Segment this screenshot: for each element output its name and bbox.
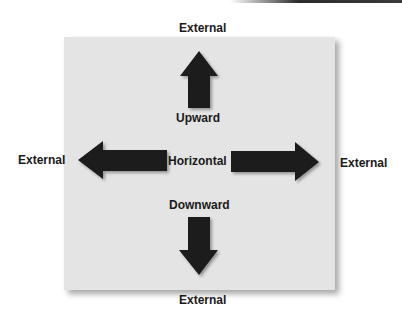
arrow-down-icon (179, 217, 218, 275)
label-external-right: External (340, 156, 387, 170)
arrow-right-icon (231, 142, 319, 181)
label-external-top: External (179, 21, 226, 35)
label-upward: Upward (176, 111, 220, 125)
arrow-left-icon (78, 141, 167, 179)
arrow-up-icon (180, 51, 218, 108)
label-external-left: External (18, 153, 65, 167)
label-external-bottom: External (179, 293, 226, 307)
label-downward: Downward (169, 198, 230, 212)
label-horizontal: Horizontal (168, 154, 227, 168)
